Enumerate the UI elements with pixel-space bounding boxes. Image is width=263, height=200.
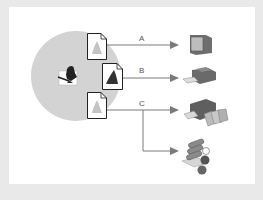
route-label-b: B [139, 67, 144, 75]
arrow-head-c2 [170, 147, 179, 155]
arrow-head-c1 [170, 106, 179, 114]
arrow-head-b [170, 74, 179, 82]
route-label-c: C [139, 100, 145, 108]
offset-press-icon [182, 135, 218, 177]
commercial-printer-icon [182, 98, 230, 128]
desktop-printer-icon [182, 66, 220, 86]
arrow-head-a [170, 41, 179, 49]
monitor-icon [188, 33, 214, 57]
route-label-a: A [139, 35, 144, 43]
